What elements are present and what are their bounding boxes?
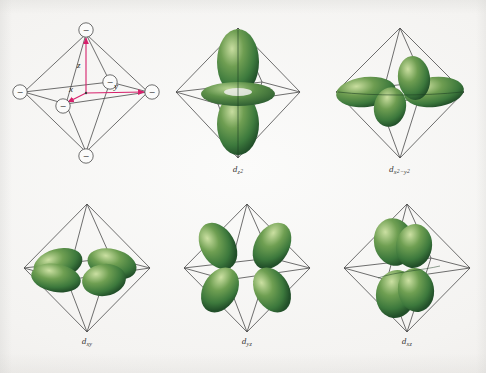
axis-label-x: x [68, 84, 73, 94]
orbital-lobes-dx2y2 [335, 54, 466, 130]
orbital-lobes-dyz [191, 216, 299, 319]
svg-text:−: − [83, 152, 90, 161]
figure-page: − − − − − − z y x [0, 0, 486, 373]
dxy-svg [12, 190, 162, 345]
panel-dyz: dyz [172, 190, 322, 345]
caption-dxy: dxy [12, 336, 162, 347]
dx2y2-svg [322, 12, 477, 172]
lobe-upper-right [245, 216, 299, 276]
axis-label-y: y [113, 81, 118, 91]
caption-dz2: dz2 [163, 164, 313, 175]
dxz-svg [332, 190, 482, 345]
svg-text:−: − [107, 78, 114, 87]
dz2-svg [163, 12, 313, 172]
panel-dxy: dxy [12, 190, 162, 345]
svg-text:−: − [149, 88, 156, 97]
panel-dxz: dxz [332, 190, 482, 345]
svg-text:−: − [83, 26, 90, 35]
panel-octahedron-axes: − − − − − − z y x [6, 12, 166, 172]
octahedron-axes-svg: − − − − − − z y x [6, 12, 166, 172]
axes-arrows [68, 38, 144, 102]
orbital-lobes-dxz [369, 214, 437, 321]
dyz-svg [172, 190, 322, 345]
caption-dxz: dxz [332, 336, 482, 347]
lobe-upper-left [191, 216, 245, 276]
svg-text:−: − [60, 102, 67, 111]
lobe-lower-right [245, 261, 298, 320]
axis-label-z: z [76, 60, 81, 70]
origin-dot [85, 92, 87, 94]
panel-dz2: dz2 [163, 12, 313, 172]
caption-dyz: dyz [172, 336, 322, 347]
panel-dx2-y2: dx2−y2 [322, 12, 477, 172]
svg-text:−: − [17, 88, 24, 97]
caption-dx2-y2: dx2−y2 [322, 164, 477, 175]
octahedron-edges [184, 204, 310, 332]
